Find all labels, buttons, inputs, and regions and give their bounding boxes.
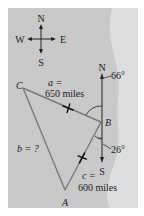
vertex-b-label: B bbox=[105, 117, 111, 128]
compass-south-label: S bbox=[38, 57, 44, 68]
side-b-label: b = ? bbox=[17, 143, 39, 154]
bearing-north-label: N bbox=[98, 62, 105, 73]
side-a-label: a = bbox=[48, 77, 62, 88]
navigation-diagram: N S W E N S 66° 26° C B bbox=[0, 0, 144, 216]
angle-66-label: 66° bbox=[111, 70, 125, 81]
vertex-c-label: C bbox=[16, 80, 23, 91]
side-c-label: c = bbox=[82, 170, 96, 181]
bearing-south-label: S bbox=[99, 166, 105, 177]
side-a-value: 650 miles bbox=[45, 88, 84, 99]
compass-east-label: E bbox=[60, 34, 66, 45]
vertex-a-label: A bbox=[61, 197, 69, 208]
compass-west-label: W bbox=[15, 34, 25, 45]
side-c-value: 600 miles bbox=[78, 182, 117, 193]
angle-26-label: 26° bbox=[111, 144, 125, 155]
compass-north-label: N bbox=[37, 13, 44, 24]
